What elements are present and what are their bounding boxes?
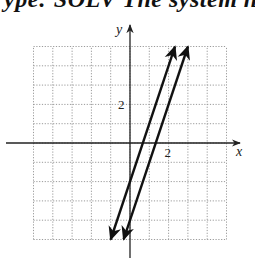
y-axis-label: y (114, 22, 123, 37)
x-tick-label: 2 (165, 145, 172, 160)
axis-labels: xy22 (114, 22, 243, 160)
y-tick-label: 2 (118, 97, 125, 112)
coordinate-graph: xy22 (0, 0, 255, 262)
axes (6, 25, 240, 258)
x-axis-label: x (235, 144, 243, 159)
